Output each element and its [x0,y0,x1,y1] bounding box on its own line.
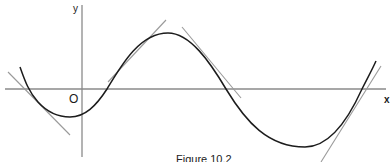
y-axis-label: y [73,4,78,14]
function-curve [20,33,376,147]
tangent-falling-slope [182,27,241,98]
origin-label: O [69,93,78,105]
x-axis-label: x [384,95,390,105]
figure-caption: Figure 10.2 [176,153,232,162]
tangent-right-crossing [321,66,381,162]
function-graph [0,0,392,162]
